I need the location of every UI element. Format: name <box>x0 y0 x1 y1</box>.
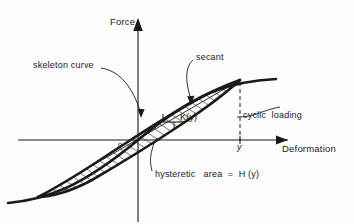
secant-label: secant <box>196 52 224 62</box>
x-tick-label-y: y <box>237 142 242 152</box>
x-axis-label: Deformation <box>282 143 336 154</box>
origin-label: o <box>118 140 122 149</box>
secant-line <box>38 80 240 197</box>
hysteresis-diagram: Force Deformation skeleton curve secant … <box>0 0 354 224</box>
secant-leader-line <box>187 60 195 105</box>
hysteretic-area-label: hysteretic area = H (y) <box>155 169 259 179</box>
skeleton-curve-label: skeleton curve <box>33 60 94 70</box>
y-axis-label: Force <box>110 16 135 27</box>
cyclic-loading-label: cyclic loading <box>243 110 302 120</box>
stiffness-label: K(y) <box>180 112 197 122</box>
